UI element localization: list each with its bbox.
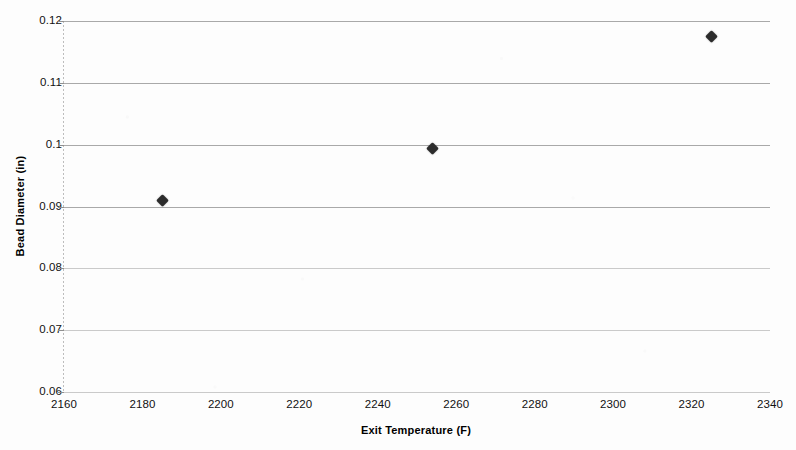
gridline-y: [64, 207, 770, 208]
x-tick-label: 2340: [735, 398, 796, 410]
y-tick-label: 0.12: [2, 15, 62, 27]
x-tick-label: 2160: [29, 398, 99, 410]
x-tick-label: 2200: [186, 398, 256, 410]
data-point-marker: [705, 30, 718, 43]
x-tick-label: 2260: [421, 398, 491, 410]
gridline-y: [64, 330, 770, 331]
plot-area: [64, 21, 770, 392]
x-tick-label: 2180: [107, 398, 177, 410]
x-axis-title: Exit Temperature (F): [0, 424, 796, 436]
y-tick-label: 0.1: [2, 139, 62, 151]
y-tick-label: 0.06: [2, 386, 62, 398]
scatter-chart-figure: Bead Diameter (in) 0.060.070.080.090.10.…: [0, 0, 796, 450]
gridline-y: [64, 21, 770, 22]
y-tick-label: 0.08: [2, 262, 62, 274]
x-tick-label: 2320: [657, 398, 727, 410]
y-tick-label: 0.11: [2, 77, 62, 89]
x-axis-title-text: Exit Temperature (F): [361, 424, 471, 436]
gridline-y: [64, 145, 770, 146]
gridline-y: [64, 268, 770, 269]
x-tick-label: 2240: [343, 398, 413, 410]
gridline-y: [64, 392, 770, 393]
gridline-y: [64, 83, 770, 84]
y-tick-label: 0.07: [2, 324, 62, 336]
x-tick-label: 2220: [264, 398, 334, 410]
x-tick-label: 2300: [578, 398, 648, 410]
data-point-marker: [156, 194, 169, 207]
x-tick-label: 2280: [500, 398, 570, 410]
y-tick-label: 0.09: [2, 201, 62, 213]
